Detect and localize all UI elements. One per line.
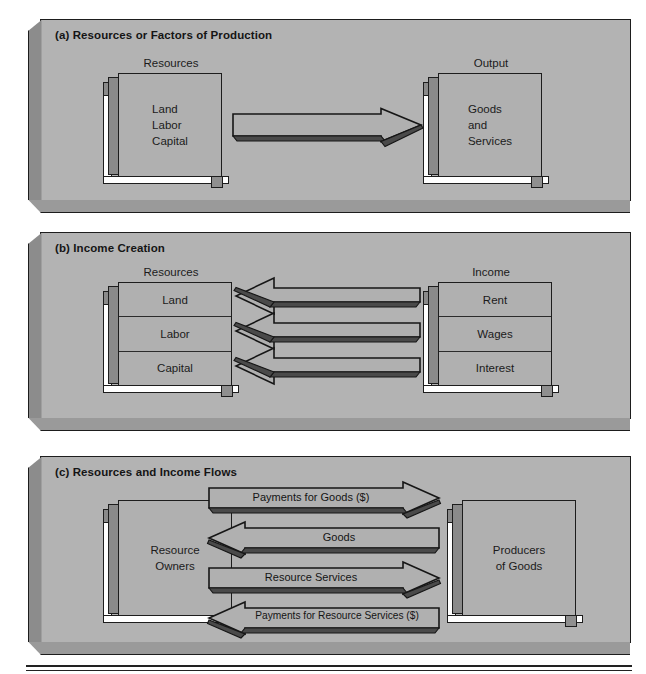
box-face-text: Goods and Services [468, 101, 512, 149]
panel-c-arrow-payments-for-resource-services: Payments for Resource Services ($) [207, 605, 441, 637]
panel-b-arrow-wages [234, 317, 422, 348]
box-front-face: Producers of Goods [462, 500, 576, 616]
segment-row: Interest [439, 351, 551, 385]
panel-c: (c) Resources and Income Flows Resource … [40, 456, 631, 643]
box-front-face: Rent Wages Interest [438, 282, 552, 386]
box-face-line: of Goods [493, 558, 545, 574]
box-bottom-tab [541, 385, 553, 397]
panel-c-left-bevel [28, 457, 42, 642]
panel-a-left-caption: Resources [126, 57, 216, 69]
box-face-text: Land Labor Capital [152, 101, 188, 149]
bottom-rule [26, 665, 632, 671]
box-face-line: Goods [468, 101, 512, 117]
box-face-text: Producers of Goods [493, 542, 545, 574]
box-front-face: Resource Owners [118, 500, 232, 616]
box-front-face: Goods and Services [438, 73, 542, 177]
box-white-frame-horizontal [423, 385, 559, 393]
segment-row: Land [119, 283, 231, 316]
panel-c-arrow-payments-for-goods: Payments for Goods ($) [207, 485, 441, 517]
panel-c-bottom-bevel [28, 642, 630, 656]
panel-b-income-box: Rent Wages Interest [417, 281, 567, 399]
panel-b-left-bevel [28, 233, 42, 418]
box-bottom-tab [565, 615, 577, 627]
box-front-face: Land Labor Capital [118, 73, 222, 177]
box-front-face: Land Labor Capital [118, 282, 232, 386]
arrow-label: Goods [207, 531, 441, 543]
box-face-line: Resource [150, 542, 199, 558]
panel-a-bottom-bevel [28, 200, 630, 214]
box-face-line: Land [152, 101, 188, 117]
panel-b-arrow-interest [234, 352, 422, 383]
box-bottom-tab [211, 176, 223, 188]
panel-a: (a) Resources or Factors of Production R… [40, 19, 631, 201]
panel-c-arrow-resource-services: Resource Services [207, 565, 441, 597]
box-face-line: Labor [152, 117, 188, 133]
panel-a-right-caption: Output [446, 57, 536, 69]
box-face-text: Resource Owners [150, 542, 199, 574]
box-face-line: Services [468, 133, 512, 149]
arrow-label: Payments for Goods ($) [207, 491, 441, 503]
panel-b-right-caption: Income [446, 266, 536, 278]
box-face-line: Capital [152, 133, 188, 149]
segment-row: Capital [119, 351, 231, 385]
panel-a-flow-arrow [231, 108, 424, 148]
segment-row: Rent [439, 283, 551, 316]
box-white-frame-horizontal [103, 385, 239, 393]
segment-row: Wages [439, 316, 551, 350]
box-bottom-tab [221, 385, 233, 397]
panel-b: (b) Income Creation Resources Income Lan… [40, 232, 631, 419]
panel-b-resources-box: Land Labor Capital [97, 281, 247, 399]
panel-b-left-caption: Resources [126, 266, 216, 278]
box-face-line: Owners [150, 558, 199, 574]
panel-c-title: (c) Resources and Income Flows [55, 466, 237, 478]
panel-c-producers-box: Producers of Goods [441, 499, 591, 629]
panel-a-title: (a) Resources or Factors of Production [55, 29, 272, 41]
panel-b-bottom-bevel [28, 418, 630, 432]
figure-canvas: { "figure": { "panels": [ { "id": "a", "… [0, 0, 646, 674]
box-face-line: and [468, 117, 512, 133]
arrow-label: Resource Services [207, 571, 441, 583]
panel-a-output-box: Goods and Services [417, 72, 557, 190]
panel-c-arrow-goods: Goods [207, 525, 441, 557]
arrow-label: Payments for Resource Services ($) [207, 610, 441, 621]
panel-a-left-bevel [28, 20, 42, 200]
panel-a-resources-box: Land Labor Capital [97, 72, 237, 190]
box-white-frame-horizontal [447, 615, 583, 623]
segment-row: Labor [119, 316, 231, 350]
box-face-line: Producers [493, 542, 545, 558]
panel-b-title: (b) Income Creation [55, 242, 165, 254]
panel-b-arrow-rent [234, 282, 422, 313]
box-bottom-tab [531, 176, 543, 188]
